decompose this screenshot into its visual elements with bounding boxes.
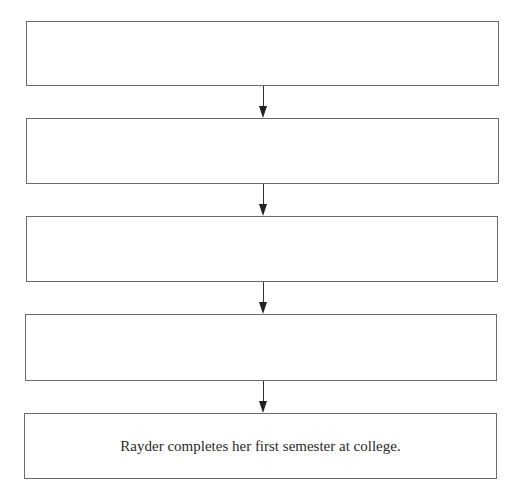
arrow-down-icon: [258, 282, 270, 314]
flow-box-4: [25, 314, 497, 381]
flow-box-2: [26, 118, 499, 184]
arrow-down-icon: [258, 86, 270, 118]
flow-box-5: Rayder completes her first semester at c…: [24, 413, 497, 479]
arrow-down-icon: [258, 381, 270, 413]
flow-box-1: [26, 21, 499, 86]
flow-box-3: [26, 216, 498, 282]
arrow-down-icon: [258, 184, 270, 216]
flow-box-5-text: Rayder completes her first semester at c…: [120, 438, 400, 455]
